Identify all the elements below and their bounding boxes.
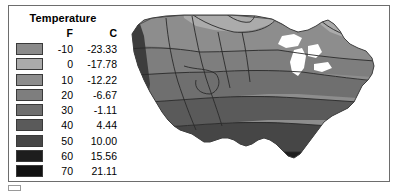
legend-item: 20 -6.67 — [9, 88, 119, 103]
legend-value-fahrenheit: 20 — [43, 89, 73, 101]
legend-value-fahrenheit: 30 — [43, 104, 73, 116]
legend-value-celsius: -1.11 — [73, 104, 117, 116]
legend-color-swatch — [16, 43, 43, 55]
legend-value-fahrenheit: 40 — [43, 119, 73, 131]
legend-color-swatch — [16, 74, 43, 86]
legend-color-swatch — [16, 119, 43, 131]
legend-color-swatch — [16, 150, 43, 162]
legend-value-fahrenheit: -10 — [43, 43, 73, 55]
legend-color-swatch — [16, 165, 43, 177]
legend-item: 70 21.11 — [9, 164, 119, 179]
temperature-map-figure: Temperature F C -10 -23.33 0 -17.78 10 -… — [0, 0, 402, 193]
legend-item: -10 -23.33 — [9, 42, 119, 57]
legend-value-fahrenheit: 10 — [43, 74, 73, 86]
legend-value-celsius: 21.11 — [73, 165, 117, 177]
legend-unit-celsius: C — [73, 27, 117, 39]
legend-item: 0 -17.78 — [9, 57, 119, 72]
legend-value-celsius: 15.56 — [73, 150, 117, 162]
legend-unit-fahrenheit: F — [43, 27, 73, 39]
legend-item: 30 -1.11 — [9, 103, 119, 118]
legend-value-celsius: -12.22 — [73, 74, 117, 86]
legend-value-fahrenheit: 60 — [43, 150, 73, 162]
legend-value-celsius: -6.67 — [73, 89, 117, 101]
legend-unit-header-row: F C — [9, 27, 117, 40]
legend-color-swatch — [16, 104, 43, 116]
legend-value-celsius: 10.00 — [73, 135, 117, 147]
legend-value-fahrenheit: 0 — [43, 58, 73, 70]
legend-item: 10 -12.22 — [9, 73, 119, 88]
legend-color-swatch — [16, 89, 43, 101]
legend-color-swatch — [16, 135, 43, 147]
legend-value-celsius: -23.33 — [73, 43, 117, 55]
legend: Temperature F C -10 -23.33 0 -17.78 10 -… — [9, 7, 121, 179]
legend-value-fahrenheit: 70 — [43, 165, 73, 177]
legend-title: Temperature — [9, 12, 117, 24]
corner-mark — [8, 185, 21, 191]
legend-rows: -10 -23.33 0 -17.78 10 -12.22 20 -6.67 3 — [9, 42, 119, 180]
map-svg — [122, 6, 388, 181]
legend-item: 50 10.00 — [9, 134, 119, 149]
legend-item: 40 4.44 — [9, 118, 119, 133]
legend-value-celsius: -17.78 — [73, 58, 117, 70]
us-temperature-map — [122, 6, 388, 181]
legend-value-celsius: 4.44 — [73, 119, 117, 131]
legend-item: 60 15.56 — [9, 149, 119, 164]
legend-color-swatch — [16, 58, 43, 70]
legend-value-fahrenheit: 50 — [43, 135, 73, 147]
